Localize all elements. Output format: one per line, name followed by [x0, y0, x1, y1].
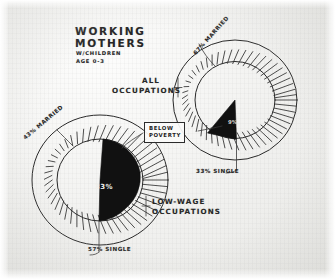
below-poverty-legend-box: BELOW POVERTY — [144, 122, 185, 143]
label-low-wage-line2: OCCUPATIONS — [152, 207, 221, 216]
label-low-wage-line1: LOW-WAGE — [152, 197, 205, 206]
all-occupations-single-label: 33% SINGLE — [196, 168, 239, 175]
all-occupations-poverty-percent: 9% — [228, 119, 237, 125]
low-wage-poverty-wedge — [99, 139, 140, 221]
page-subtitle-line2: AGE 0-3 — [76, 58, 105, 65]
low-wage-poverty-percent: 33% — [95, 183, 113, 191]
below-poverty-line1: BELOW — [149, 125, 181, 132]
page-title-line2: MOTHERS — [75, 37, 146, 50]
donut-all-occupations — [173, 40, 297, 170]
low-wage-single-label: 57% SINGLE — [88, 246, 131, 253]
sketch-infographic-canvas: WORKING MOTHERS W/CHILDREN AGE 0-3 ALL O… — [0, 0, 335, 279]
label-all-occupations-line2: OCCUPATIONS — [112, 86, 181, 95]
poverty-connector-left — [122, 133, 143, 148]
all-occupations-hatch — [182, 49, 297, 150]
label-all-occupations-line1: ALL — [142, 76, 160, 85]
page-subtitle-line1: W/CHILDREN — [76, 50, 121, 57]
low-wage-married-leader — [57, 130, 73, 146]
below-poverty-line2: POVERTY — [149, 132, 181, 139]
